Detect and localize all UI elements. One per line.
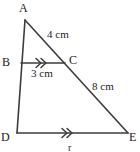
bc-length-label: 3 cm — [31, 68, 53, 79]
segment-ad — [17, 20, 25, 133]
vertex-label-e: E — [129, 131, 136, 143]
ac-length-label: 4 cm — [47, 29, 69, 40]
geometry-figure: A B C D E 4 cm 3 cm 8 cm r — [0, 0, 140, 152]
figure-canvas — [0, 0, 140, 152]
de-length-label: r — [68, 143, 71, 152]
vertex-label-c: C — [69, 54, 77, 66]
vertex-label-b: B — [2, 56, 10, 68]
ce-length-label: 8 cm — [92, 81, 114, 92]
vertex-label-a: A — [19, 2, 28, 14]
vertex-label-d: D — [1, 131, 10, 143]
